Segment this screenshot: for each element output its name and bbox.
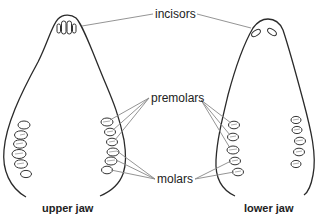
lower-right-teeth — [291, 116, 306, 167]
premolars-leaders — [110, 98, 231, 148]
jaw-diagram: incisors premolars molars upper jaw lowe… — [0, 0, 334, 215]
incisors-label: incisors — [155, 7, 196, 21]
upper-jaw-caption: upper jaw — [42, 202, 93, 215]
upper-left-teeth — [12, 121, 32, 178]
lower-jaw-caption: lower jaw — [244, 202, 294, 215]
lower-jaw-outline — [216, 19, 314, 196]
lower-incisors — [250, 27, 277, 38]
upper-incisors — [57, 21, 76, 34]
molars-label: molars — [157, 172, 193, 186]
upper-right-teeth — [101, 118, 119, 174]
lower-left-teeth — [227, 121, 244, 176]
premolars-label: premolars — [151, 91, 204, 105]
